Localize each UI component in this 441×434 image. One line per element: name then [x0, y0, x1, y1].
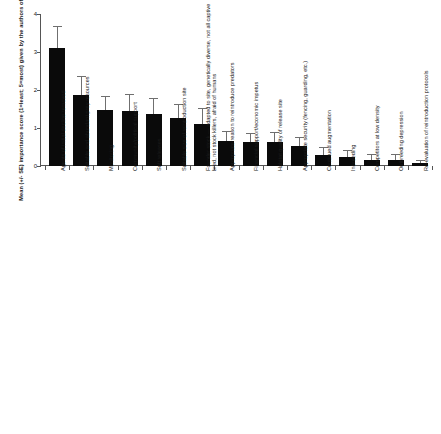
- x-tick-mark: [360, 166, 361, 170]
- error-bar: [81, 77, 82, 95]
- y-tick-label: 3: [27, 49, 37, 55]
- x-tick-mark: [190, 166, 191, 170]
- x-axis-label: Financial support/economic impetus: [253, 82, 259, 171]
- x-tick-mark: [287, 166, 288, 170]
- x-axis-label: Appropriate security (fencing, guarding,…: [302, 61, 308, 171]
- x-tick-mark: [335, 166, 336, 170]
- x-axis-label: Soft releases: [156, 138, 162, 171]
- x-axis-label: Outbreeding depression: [398, 111, 404, 171]
- x-axis-label: Suitable and abundant prey resources: [84, 76, 90, 171]
- error-bar: [250, 134, 251, 142]
- x-axis-label: Continued augmentation: [326, 110, 332, 171]
- error-bar: [129, 95, 130, 111]
- y-tick-label: 2: [27, 87, 37, 93]
- x-axis-label: Appropriate reason to reintroduce predat…: [229, 62, 235, 171]
- error-bar: [226, 132, 227, 141]
- y-tick-label: 4: [27, 11, 37, 17]
- x-tick-mark: [239, 166, 240, 170]
- x-axis-label: Re-evaluation of reintroduction protocol…: [423, 71, 429, 171]
- error-bar: [395, 155, 396, 160]
- error-bar: [347, 151, 348, 156]
- error-bar: [274, 133, 275, 142]
- x-tick-mark: [311, 166, 312, 170]
- error-bar: [420, 161, 421, 164]
- y-tick-mark: [37, 52, 41, 53]
- error-bar: [105, 97, 106, 110]
- x-tick-mark: [384, 166, 385, 170]
- y-tick-mark: [37, 90, 41, 91]
- x-tick-mark: [263, 166, 264, 170]
- x-axis-label: Competitors at low density: [374, 105, 380, 171]
- x-axis-label: Community/political support: [132, 102, 138, 171]
- x-tick-mark: [166, 166, 167, 170]
- x-axis-label: Habitat quality of release site: [277, 99, 283, 171]
- error-bar-cap: [53, 26, 62, 27]
- error-bar-cap: [125, 94, 134, 95]
- y-tick-mark: [37, 14, 41, 15]
- x-tick-mark: [408, 166, 409, 170]
- x-tick-mark: [142, 166, 143, 170]
- error-bar: [153, 99, 154, 113]
- x-tick-mark: [432, 166, 433, 170]
- bar-chart-figure: Mean (+/- SE) importance score (1=least;…: [0, 0, 441, 434]
- y-axis-title: Mean (+/- SE) importance score (1=least;…: [19, 0, 25, 201]
- error-bar: [299, 138, 300, 147]
- x-tick-mark: [45, 166, 46, 170]
- error-bar-cap: [101, 96, 110, 97]
- x-axis-label: Inbreeding: [350, 145, 356, 171]
- x-axis-label: Founder stock — adapted to site, genetic…: [205, 4, 218, 171]
- y-tick-mark: [37, 128, 41, 129]
- error-bar: [178, 105, 179, 118]
- x-tick-mark: [93, 166, 94, 170]
- x-tick-mark: [69, 166, 70, 170]
- x-axis-label: Monitoring: [108, 145, 114, 171]
- y-tick-label: 1: [27, 125, 37, 131]
- x-tick-mark: [118, 166, 119, 170]
- error-bar: [57, 27, 58, 48]
- y-tick-label: 0: [27, 163, 37, 169]
- error-bar-cap: [149, 98, 158, 99]
- y-tick-mark: [37, 166, 41, 167]
- error-bar: [202, 109, 203, 124]
- error-bar: [371, 155, 372, 160]
- error-bar: [323, 148, 324, 154]
- x-axis-label: Suitable size of reintroduction site: [181, 87, 187, 171]
- x-axis-label: Agents of initial decline removed: [60, 90, 66, 171]
